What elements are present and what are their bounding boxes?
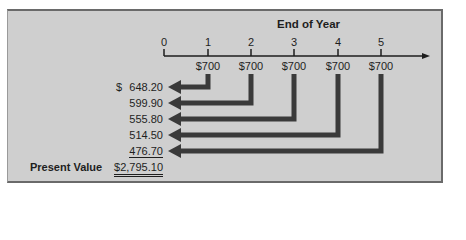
pv-year-3: 555.80	[93, 113, 163, 125]
discount-arrows	[178, 74, 381, 151]
timeline-axis	[164, 49, 430, 59]
present-value-total: $2,795.10	[114, 161, 163, 177]
axis-arrow-icon	[422, 53, 430, 59]
arrowhead-left-icon	[168, 144, 181, 158]
arrowhead-left-icon	[168, 112, 181, 126]
pv-year-4: 514.50	[93, 129, 163, 141]
arrowhead-left-icon	[168, 128, 181, 142]
pv-total-wrap: $2,795.10	[112, 161, 163, 173]
pv-year-2: 599.90	[93, 97, 163, 109]
present-value-label: Present Value	[30, 161, 102, 173]
arrowhead-left-icon	[168, 80, 181, 94]
pv-year-5: 476.70	[129, 145, 163, 158]
pv-year-5-wrap: 476.70	[122, 145, 163, 157]
pv-year-1: 648.20	[93, 81, 163, 93]
arrow-year-3	[178, 74, 294, 119]
arrowhead-left-icon	[168, 96, 181, 110]
arrow-year-1	[178, 74, 208, 87]
arrowheads	[168, 80, 181, 158]
